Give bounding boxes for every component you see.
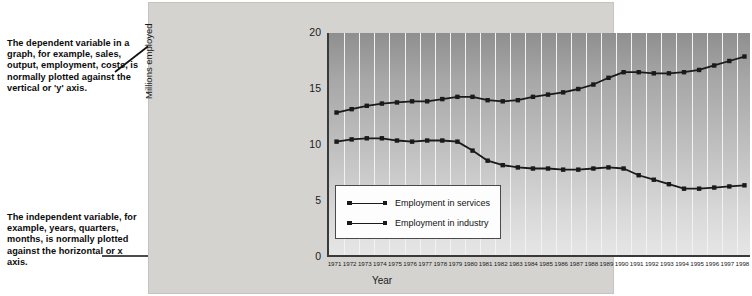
data-point [531, 95, 535, 99]
data-point [546, 166, 550, 170]
x-axis-title: Year [149, 275, 615, 286]
data-point [470, 148, 474, 152]
data-point [667, 182, 671, 186]
data-point [485, 158, 489, 162]
data-point [712, 185, 716, 189]
data-point [425, 99, 429, 103]
data-point [727, 184, 731, 188]
data-point [637, 173, 641, 177]
data-point [440, 97, 444, 101]
legend-label-industry: Employment in industry [395, 218, 489, 228]
data-point [470, 95, 474, 99]
data-point [606, 76, 610, 80]
data-point [485, 98, 489, 102]
legend-marker-services [346, 198, 388, 208]
data-point [606, 165, 610, 169]
data-point [621, 166, 625, 170]
y-axis-tick-label: 0 [295, 250, 321, 262]
data-point [637, 70, 641, 74]
data-point [440, 138, 444, 142]
data-point [395, 138, 399, 142]
data-point [652, 178, 656, 182]
y-axis-title: Millions employed [143, 23, 154, 99]
data-point [561, 167, 565, 171]
data-point [591, 166, 595, 170]
data-point [652, 71, 656, 75]
y-axis-tick-label: 10 [295, 138, 321, 150]
chart-panel: Millions employed 05101520 1971197219731… [148, 2, 614, 294]
data-point [410, 139, 414, 143]
data-point [621, 70, 625, 74]
data-point [395, 100, 399, 104]
series-line [337, 138, 745, 188]
data-point [531, 166, 535, 170]
data-point [380, 101, 384, 105]
data-point [667, 71, 671, 75]
data-point [455, 139, 459, 143]
data-point [742, 183, 746, 187]
x-axis-tick-label: 1998 [733, 260, 751, 267]
data-point [697, 68, 701, 72]
data-point [712, 63, 716, 67]
data-point [349, 107, 353, 111]
legend-item-services: Employment in services [346, 193, 500, 213]
data-point [576, 87, 580, 91]
data-point [682, 186, 686, 190]
data-point [410, 99, 414, 103]
data-point [742, 54, 746, 58]
data-point [727, 59, 731, 63]
data-point [349, 137, 353, 141]
data-point [561, 90, 565, 94]
legend-marker-industry [346, 218, 388, 228]
data-point [380, 136, 384, 140]
chart-legend: Employment in services Employment in ind… [335, 185, 501, 239]
data-point [576, 167, 580, 171]
data-point [682, 70, 686, 74]
data-point [546, 92, 550, 96]
data-point [425, 138, 429, 142]
data-point [365, 104, 369, 108]
data-point [591, 82, 595, 86]
data-point [501, 163, 505, 167]
legend-label-services: Employment in services [395, 198, 490, 208]
y-axis-tick-label: 20 [295, 26, 321, 38]
data-point [697, 186, 701, 190]
data-point [334, 139, 338, 143]
data-point [516, 98, 520, 102]
y-axis-tick-label: 5 [295, 194, 321, 206]
legend-item-industry: Employment in industry [346, 213, 500, 233]
data-point [516, 165, 520, 169]
data-point [365, 136, 369, 140]
y-axis-tick-label: 15 [295, 82, 321, 94]
data-point [455, 95, 459, 99]
data-point [501, 99, 505, 103]
data-point [334, 110, 338, 114]
